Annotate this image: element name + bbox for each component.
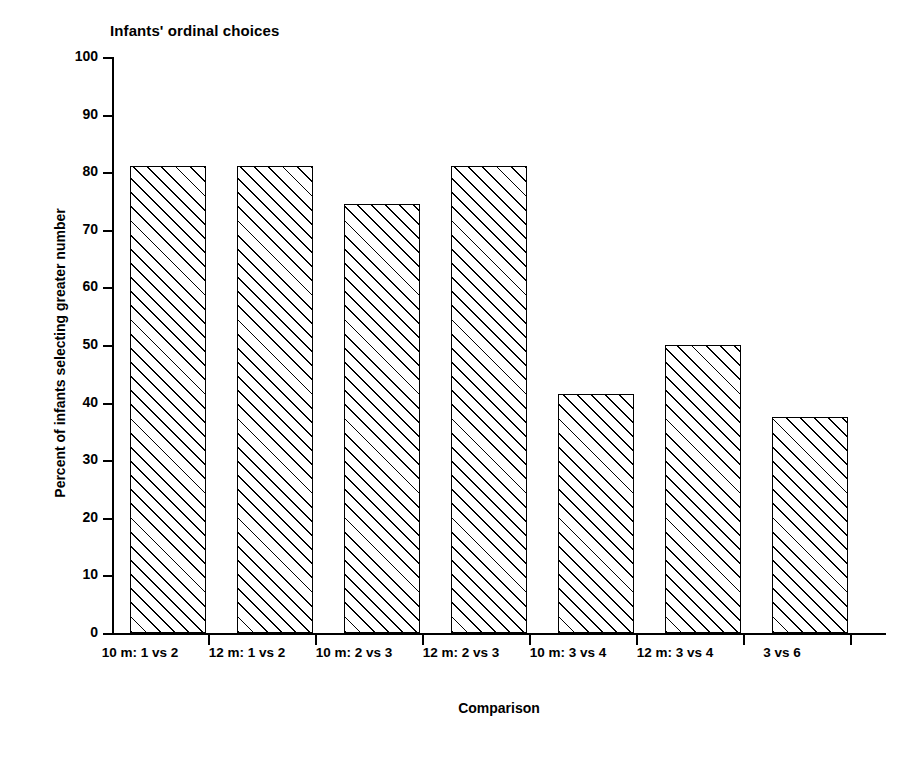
x-axis-tick xyxy=(743,635,745,645)
y-axis-tick-label: 0 xyxy=(90,624,98,640)
x-axis-category-label: 3 vs 6 xyxy=(702,645,862,660)
x-axis-line xyxy=(112,633,886,635)
y-axis-tick-label: 10 xyxy=(82,566,98,582)
chart-title: Infants' ordinal choices xyxy=(110,22,279,39)
y-axis-tick-label: 70 xyxy=(82,221,98,237)
y-axis-tick-label: 90 xyxy=(82,106,98,122)
x-axis-tick xyxy=(315,635,317,645)
bar-chart-figure: Infants' ordinal choices Percent of infa… xyxy=(0,0,914,761)
x-axis-tick xyxy=(850,635,852,645)
y-axis-tick-label: 100 xyxy=(75,48,98,64)
bar xyxy=(344,204,420,633)
y-axis-tick-label: 40 xyxy=(82,394,98,410)
bar xyxy=(451,166,527,633)
y-axis-tick-label: 50 xyxy=(82,336,98,352)
y-axis-label: Percent of infants selecting greater num… xyxy=(52,143,68,563)
bar xyxy=(772,417,848,633)
y-axis-tick: 20 xyxy=(103,518,112,520)
y-axis-tick: 10 xyxy=(103,575,112,577)
y-axis-tick: 80 xyxy=(103,172,112,174)
bar xyxy=(130,166,206,633)
y-axis-tick: 70 xyxy=(103,230,112,232)
y-axis-line xyxy=(112,57,114,633)
x-axis-tick xyxy=(208,635,210,645)
y-axis-tick: 100 xyxy=(103,57,112,59)
x-axis-tick xyxy=(529,635,531,645)
y-axis-tick-label: 60 xyxy=(82,278,98,294)
y-axis-tick-label: 30 xyxy=(82,451,98,467)
y-axis-tick: 90 xyxy=(103,115,112,117)
y-axis-tick-label: 80 xyxy=(82,163,98,179)
x-axis-label: Comparison xyxy=(112,700,886,716)
y-axis-tick: 0 xyxy=(103,633,112,635)
y-axis-tick: 40 xyxy=(103,403,112,405)
bar xyxy=(237,166,313,633)
bar xyxy=(558,394,634,633)
bar xyxy=(665,345,741,633)
x-axis-tick xyxy=(422,635,424,645)
y-axis-tick-label: 20 xyxy=(82,509,98,525)
y-axis-tick: 30 xyxy=(103,460,112,462)
y-axis-tick: 60 xyxy=(103,287,112,289)
x-axis-tick xyxy=(636,635,638,645)
y-axis-tick: 50 xyxy=(103,345,112,347)
plot-area: 100 90 80 70 60 50 40 30 20 10 0 xyxy=(112,57,886,633)
